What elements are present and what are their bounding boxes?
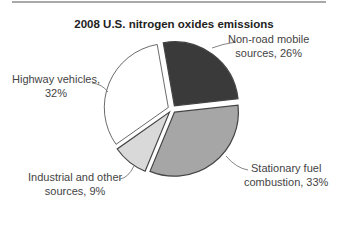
slice-nonroad	[163, 42, 238, 106]
label-nonroad-line2: sources, 26%	[228, 46, 309, 60]
label-nonroad: Non-road mobile sources, 26%	[228, 32, 309, 60]
label-stationary-line2: combustion, 33%	[244, 175, 328, 189]
label-industrial-line2: sources, 9%	[28, 184, 122, 198]
slice-stationary	[150, 105, 238, 176]
label-industrial-line1: Industrial and other	[28, 170, 122, 184]
label-highway-line2: 32%	[12, 86, 100, 100]
label-stationary: Stationary fuel combustion, 33%	[244, 161, 328, 189]
label-nonroad-line1: Non-road mobile	[228, 32, 309, 46]
label-industrial: Industrial and other sources, 9%	[28, 170, 122, 198]
label-highway: Highway vehicles, 32%	[12, 72, 100, 100]
label-highway-line1: Highway vehicles,	[12, 72, 100, 86]
label-stationary-line1: Stationary fuel	[244, 161, 328, 175]
